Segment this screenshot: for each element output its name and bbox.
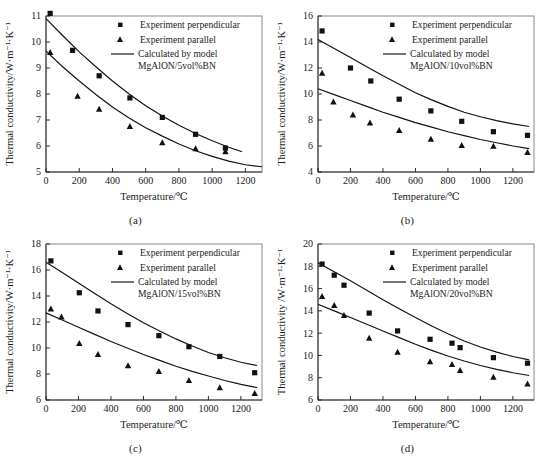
data-point-parallel (367, 119, 373, 125)
x-tick-label: 1000 (470, 403, 490, 414)
x-tick-label: 200 (72, 175, 87, 186)
data-point-parallel (366, 335, 372, 341)
panel-a-caption: (a) (0, 214, 271, 226)
y-tick-label: 12 (303, 328, 313, 339)
x-tick-label: 1200 (503, 403, 523, 414)
data-point-parallel (428, 136, 434, 142)
legend-square-icon (118, 251, 122, 255)
y-tick-label: 10 (303, 88, 313, 99)
y-tick-label: 10 (31, 342, 41, 353)
panel-b-caption: (b) (272, 214, 543, 226)
x-tick-label: 200 (71, 403, 86, 414)
legend-label-composition: MgAlON/5vol%BN (138, 60, 216, 71)
data-point-parallel (159, 139, 165, 145)
legend-label-perpendicular: Experiment perpendicular (412, 247, 513, 258)
legend-label-model: Calculated by model (410, 48, 490, 59)
thermal-conductivity-figure: 567891011020040060080010001200Temperatur… (0, 0, 543, 456)
panel-b: 46810121416020040060080010001200Temperat… (272, 0, 543, 228)
x-tick-label: 400 (103, 403, 118, 414)
data-point-perpendicular (97, 73, 102, 78)
data-point-perpendicular (70, 48, 75, 53)
data-point-perpendicular (160, 115, 165, 120)
y-tick-label: 7 (36, 114, 41, 125)
panel-d-plot: 68101214161820020040060080010001200Tempe… (272, 228, 543, 456)
data-point-perpendicular (348, 65, 353, 70)
data-point-parallel (319, 70, 325, 76)
y-tick-label: 10 (303, 350, 313, 361)
y-tick-label: 16 (31, 264, 41, 275)
y-tick-label: 8 (36, 368, 41, 379)
data-point-perpendicular (95, 308, 100, 313)
data-point-parallel (524, 149, 530, 155)
data-point-parallel (341, 312, 347, 318)
panel-c-plot: 681012141618020040060080010001200Tempera… (0, 228, 271, 456)
data-point-parallel (330, 98, 336, 104)
y-tick-label: 14 (31, 290, 41, 301)
legend-label-perpendicular: Experiment perpendicular (140, 247, 241, 258)
legend-square-icon (118, 23, 122, 27)
x-tick-label: 1000 (470, 175, 490, 186)
y-tick-label: 10 (31, 36, 41, 47)
data-point-perpendicular (491, 129, 496, 134)
y-tick-label: 8 (36, 88, 41, 99)
model-curve (318, 304, 529, 375)
y-tick-label: 8 (308, 372, 313, 383)
legend-label-parallel: Experiment parallel (140, 262, 216, 273)
data-point-perpendicular (193, 132, 198, 137)
data-point-parallel (396, 127, 402, 133)
data-point-perpendicular (186, 344, 191, 349)
x-tick-label: 800 (171, 175, 186, 186)
data-point-parallel (156, 368, 162, 374)
data-point-perpendicular (449, 341, 454, 346)
data-point-perpendicular (48, 258, 53, 263)
panel-a-plot: 567891011020040060080010001200Temperatur… (0, 0, 271, 228)
model-curve (46, 313, 257, 388)
legend-triangle-icon (389, 264, 395, 270)
data-point-parallel (217, 384, 223, 390)
data-point-perpendicular (427, 337, 432, 342)
y-tick-label: 16 (303, 283, 313, 294)
y-tick-label: 4 (308, 166, 313, 177)
legend-label-parallel: Experiment parallel (412, 262, 488, 273)
data-point-parallel (427, 358, 433, 364)
data-point-perpendicular (525, 361, 530, 366)
data-point-parallel (490, 374, 496, 380)
legend-label-composition: MgAlON/10vol%BN (410, 60, 493, 71)
x-tick-label: 400 (105, 175, 120, 186)
y-tick-label: 6 (308, 394, 313, 405)
x-tick-label: 600 (136, 403, 151, 414)
legend-label-composition: MgAlON/20vol%BN (410, 288, 493, 299)
panel-b-plot: 46810121416020040060080010001200Temperat… (272, 0, 543, 228)
legend-square-icon (390, 251, 394, 255)
legend-label-parallel: Experiment parallel (140, 34, 216, 45)
data-point-perpendicular (127, 95, 132, 100)
data-point-parallel (459, 142, 465, 148)
data-point-perpendicular (525, 133, 530, 138)
panel-c-caption: (c) (0, 442, 271, 454)
x-tick-label: 600 (408, 175, 423, 186)
legend-label-model: Calculated by model (138, 276, 218, 287)
x-tick-label: 400 (375, 175, 390, 186)
y-tick-label: 6 (308, 140, 313, 151)
y-tick-label: 5 (36, 166, 41, 177)
data-point-parallel (457, 367, 463, 373)
legend-triangle-icon (389, 36, 395, 42)
x-axis-title: Temperature/℃ (392, 191, 460, 202)
y-tick-label: 11 (31, 10, 41, 21)
y-tick-label: 20 (303, 238, 313, 249)
data-point-parallel (76, 340, 82, 346)
data-point-parallel (331, 302, 337, 308)
data-point-perpendicular (156, 333, 161, 338)
panel-d-caption: (d) (272, 442, 543, 454)
data-point-perpendicular (125, 322, 130, 327)
data-point-parallel (394, 349, 400, 355)
x-tick-label: 0 (316, 403, 321, 414)
data-point-perpendicular (341, 283, 346, 288)
data-point-perpendicular (397, 97, 402, 102)
data-point-perpendicular (395, 328, 400, 333)
data-point-parallel (127, 123, 133, 129)
data-point-perpendicular (252, 370, 257, 375)
data-point-perpendicular (458, 345, 463, 350)
x-tick-label: 800 (440, 403, 455, 414)
y-tick-label: 6 (36, 394, 41, 405)
